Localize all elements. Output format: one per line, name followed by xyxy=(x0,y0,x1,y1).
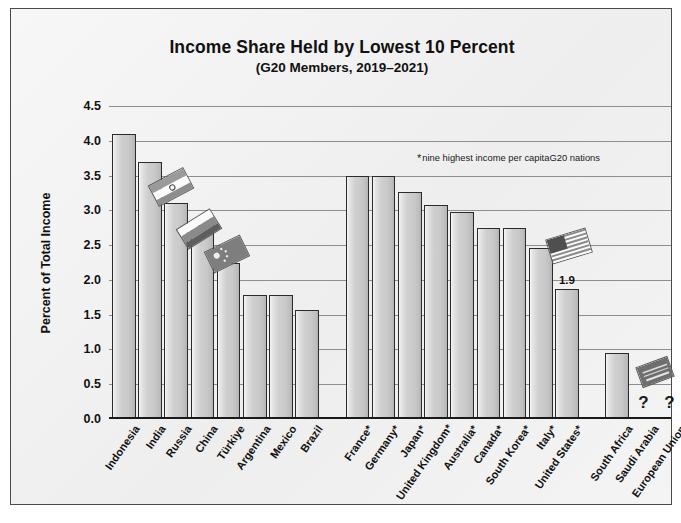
gridline xyxy=(109,106,671,107)
y-axis-tick-label: 0.0 xyxy=(84,412,101,426)
bar-south-korea xyxy=(503,228,527,419)
y-axis-tick-label: 2.5 xyxy=(84,238,101,252)
bar-japan xyxy=(398,192,422,419)
bar-argentina xyxy=(243,295,267,419)
bar-south-africa xyxy=(605,353,629,419)
asterisk-icon: * xyxy=(417,152,421,164)
missing-data-marker: ? xyxy=(638,393,648,413)
y-axis-tick-label: 1.0 xyxy=(84,342,101,356)
bar-italy xyxy=(529,248,553,419)
chart-panel: Income Share Held by Lowest 10 Percent (… xyxy=(10,8,672,505)
y-axis-title-label: Percent of Total Income xyxy=(39,192,53,333)
bar-brazil xyxy=(295,310,319,419)
y-axis-tick-label: 1.5 xyxy=(84,308,101,322)
x-axis-labels: IndonesiaIndiaRussiaChinaTürkiyeArgentin… xyxy=(109,423,671,513)
bar-mexico xyxy=(269,295,293,419)
missing-data-marker: ? xyxy=(664,393,674,413)
gridline xyxy=(109,141,671,142)
bar-value-label: 1.9 xyxy=(559,274,575,286)
bar-germany xyxy=(372,176,396,419)
y-axis-tick-label: 4.0 xyxy=(84,134,101,148)
y-axis-tick-label: 3.0 xyxy=(84,203,101,217)
bar-france xyxy=(346,176,370,419)
y-axis-tick-label: 0.5 xyxy=(84,377,101,391)
bar-united-states xyxy=(555,289,579,419)
y-axis-title: Percent of Total Income xyxy=(37,106,55,419)
bar-t-rkiye xyxy=(217,263,241,420)
slide-root: Income Share Held by Lowest 10 Percent (… xyxy=(0,0,681,523)
bar-canada xyxy=(477,228,501,419)
page-title: Income Share Held by Lowest 10 Percent xyxy=(11,37,673,57)
bar-united-kingdom xyxy=(424,205,448,419)
bar-indonesia xyxy=(112,134,136,419)
y-axis-tick-label: 3.5 xyxy=(84,169,101,183)
x-axis-line xyxy=(109,417,671,419)
bar-australia xyxy=(450,212,474,419)
y-axis-tick-label: 4.5 xyxy=(84,99,101,113)
footnote-annotation: *nine highest income per capitaG20 natio… xyxy=(417,152,600,164)
title-block: Income Share Held by Lowest 10 Percent (… xyxy=(11,37,673,76)
chart-subtitle: (G20 Members, 2019–2021) xyxy=(11,60,673,76)
footnote-text: nine highest income per capitaG20 nation… xyxy=(422,152,600,163)
y-axis-tick-label: 2.0 xyxy=(84,273,101,287)
